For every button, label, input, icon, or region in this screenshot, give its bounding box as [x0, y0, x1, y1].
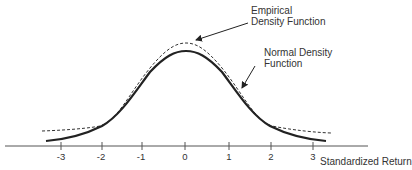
normal-label-line1: Normal Density	[264, 47, 332, 58]
x-tick-label: -1	[137, 151, 145, 162]
x-tick-label: 2	[268, 151, 273, 162]
x-tick-label: 0	[182, 151, 187, 162]
x-axis-title: Standardized Return	[320, 156, 412, 167]
empirical-annotation-arrow	[196, 23, 248, 40]
normal-annotation-arrow	[242, 66, 255, 88]
x-tick-label: -3	[57, 151, 65, 162]
x-tick-label: -2	[97, 151, 105, 162]
normal-label-line2: Function	[264, 58, 302, 69]
empirical-label-line2: Density Function	[251, 16, 325, 27]
x-tick-label: 3	[310, 151, 315, 162]
empirical-label-line1: Empirical	[251, 5, 292, 16]
x-tick-label: 1	[226, 151, 231, 162]
